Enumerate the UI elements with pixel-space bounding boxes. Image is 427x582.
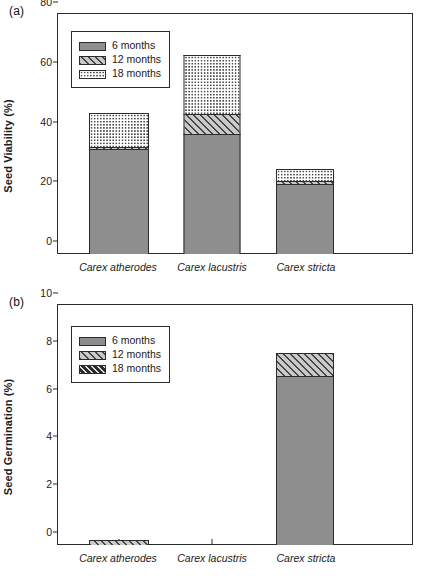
legend-item-6-months: 6 months — [79, 39, 161, 52]
panel-a-ytick-label: 80 — [40, 0, 52, 8]
panel-b-ytick-0: 0 — [46, 526, 58, 538]
legend-swatch-18-months-icon — [79, 365, 106, 374]
legend-label-12-months: 12 months — [112, 349, 161, 360]
panel-a-ytick-label: 40 — [40, 116, 52, 128]
legend-swatch-12-months-icon — [79, 56, 106, 65]
legend-item-12-months: 12 months — [79, 53, 161, 66]
bar-segment-6-months — [276, 184, 334, 254]
bar-segment-18-months — [89, 113, 149, 148]
legend-label-18-months: 18 months — [112, 68, 161, 79]
panel-a-ytick-label: 60 — [40, 56, 52, 68]
bar-segment-12-months — [276, 353, 334, 377]
panel-b-xlabel-carex-lacustris: Carex lacustris — [177, 552, 246, 564]
panel-b-ytick-label: 6 — [46, 383, 52, 395]
legend-item-18-months: 18 months — [79, 67, 161, 80]
panel-b-ytick-label: 2 — [46, 478, 52, 490]
panel-b-ytick-8: 8 — [46, 335, 58, 347]
panel-b-xlabel-carex-atherodes: Carex atherodes — [79, 552, 157, 564]
legend-swatch-18-months-icon — [79, 70, 106, 79]
bar-carex-atherodes-germination[interactable] — [89, 540, 149, 544]
legend-label-6-months: 6 months — [112, 40, 155, 51]
panel-a-ytick-0: 0 — [46, 235, 58, 247]
bar-carex-lacustris-viability[interactable] — [183, 55, 240, 253]
panel-b-ytick-label: 8 — [46, 335, 52, 347]
panel-b-ytick-label: 4 — [46, 430, 52, 442]
bar-carex-stricta-germination[interactable] — [276, 353, 334, 544]
panel-a-ytick-label: 20 — [40, 175, 52, 187]
legend-label-12-months: 12 months — [112, 54, 161, 65]
panel-b-ytick-4: 4 — [46, 430, 58, 442]
panel-b-ytick-10: 10 — [40, 287, 58, 299]
panel-a-xlabel-carex-lacustris: Carex lacustris — [177, 261, 246, 273]
panel-a: (a) Seed Viability (%) 0 20 40 60 80 — [0, 0, 427, 291]
bar-segment-12-months — [89, 540, 149, 545]
panel-b-xtick-1 — [211, 539, 212, 544]
bar-segment-18-months — [276, 169, 334, 183]
panel-a-xlabel-carex-atherodes: Carex atherodes — [79, 261, 157, 273]
bar-carex-stricta-viability[interactable] — [276, 169, 334, 253]
panel-b: (b) Seed Germination (%) 0 2 4 6 8 10 6 … — [0, 291, 427, 582]
panel-a-xlabel-carex-stricta: Carex stricta — [277, 261, 336, 273]
legend-label-18-months: 18 months — [112, 363, 161, 374]
panel-a-ytick-label: 0 — [46, 235, 52, 247]
bar-segment-6-months — [183, 134, 240, 255]
legend-swatch-12-months-icon — [79, 351, 106, 360]
legend-label-6-months: 6 months — [112, 335, 155, 346]
panel-a-ytick-60: 60 — [40, 56, 58, 68]
panel-b-ytick-label: 10 — [40, 287, 52, 299]
panel-a-ytick-80: 80 — [40, 0, 58, 8]
bar-segment-6-months — [276, 376, 334, 545]
bar-segment-12-months — [183, 114, 240, 134]
panel-a-legend: 6 months 12 months 18 months — [71, 31, 170, 88]
panel-b-y-axis-title: Seed Germination (%) — [2, 378, 14, 494]
bar-carex-atherodes-viability[interactable] — [89, 113, 149, 253]
panel-a-y-axis-title: Seed Viability (%) — [2, 99, 14, 192]
panel-b-legend: 6 months 12 months 18 months — [71, 326, 170, 383]
panel-a-ytick-20: 20 — [40, 175, 58, 187]
legend-item-6-months: 6 months — [79, 334, 161, 347]
panel-a-ytick-40: 40 — [40, 116, 58, 128]
panel-b-ytick-label: 0 — [46, 526, 52, 538]
panel-b-ytick-2: 2 — [46, 478, 58, 490]
legend-swatch-6-months-icon — [79, 337, 106, 346]
panel-a-tag: (a) — [9, 4, 24, 18]
bar-segment-18-months — [183, 55, 240, 115]
panel-b-xlabel-carex-stricta: Carex stricta — [277, 552, 336, 564]
bar-segment-6-months — [89, 149, 149, 254]
panel-b-tag: (b) — [9, 295, 24, 309]
panel-b-ytick-6: 6 — [46, 383, 58, 395]
legend-swatch-6-months-icon — [79, 42, 106, 51]
legend-item-12-months: 12 months — [79, 348, 161, 361]
legend-item-18-months: 18 months — [79, 362, 161, 375]
